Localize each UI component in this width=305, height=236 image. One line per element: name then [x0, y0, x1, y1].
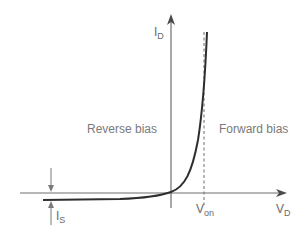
y-axis-label-sub: D [157, 31, 164, 41]
y-axis [167, 14, 175, 208]
reverse-bias-label: Reverse bias [87, 122, 157, 136]
von-label-sub: on [204, 208, 214, 218]
arrow-down-icon [48, 185, 54, 192]
y-axis-label: ID [154, 26, 164, 41]
x-axis-label-main: V [276, 202, 284, 216]
x-axis-label: VD [276, 203, 291, 218]
von-label: Von [196, 203, 214, 218]
arrow-up-icon [48, 201, 54, 208]
x-axis-label-sub: D [284, 208, 291, 218]
forward-bias-label: Forward bias [219, 122, 288, 136]
von-label-main: V [196, 202, 204, 216]
iv-curve [43, 32, 207, 200]
is-label: IS [56, 210, 65, 225]
diode-iv-diagram [0, 0, 305, 236]
is-indicator [48, 168, 54, 225]
is-label-sub: S [59, 215, 65, 225]
